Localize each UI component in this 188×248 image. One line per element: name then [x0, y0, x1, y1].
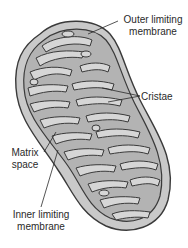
label-matrix-space: Matrix space	[8, 147, 42, 171]
label-outer-line2: membrane	[118, 26, 188, 38]
label-cristae: Cristae	[141, 91, 173, 103]
label-outer-line1: Outer limiting	[118, 14, 188, 26]
label-matrix-line2: space	[8, 159, 42, 171]
label-inner-line2: membrane	[5, 221, 77, 233]
label-inner-line1: Inner limiting	[5, 209, 77, 221]
label-inner-limiting-membrane: Inner limiting membrane	[5, 209, 77, 233]
label-outer-limiting-membrane: Outer limiting membrane	[118, 14, 188, 38]
label-matrix-line1: Matrix	[8, 147, 42, 159]
